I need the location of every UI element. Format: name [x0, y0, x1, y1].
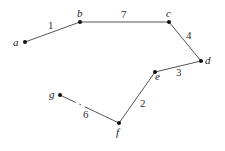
edge-weight-fg: 6: [83, 108, 89, 120]
node-label-g: g: [49, 88, 55, 100]
edge-weight-de: 3: [176, 66, 182, 78]
node-label-a: a: [13, 36, 19, 48]
node-c: [167, 20, 171, 24]
node-label-e: e: [155, 70, 160, 82]
edge-weight-ef: 2: [140, 97, 146, 109]
edge-f-g: [60, 95, 119, 123]
node-f: [117, 121, 121, 125]
node-d: [199, 59, 203, 63]
node-g: [58, 93, 62, 97]
node-label-b: b: [77, 7, 83, 19]
node-b: [78, 20, 82, 24]
node-label-f: f: [116, 126, 121, 138]
edge-weight-cd: 4: [186, 29, 192, 41]
node-a: [23, 40, 27, 44]
edge-c-d: [169, 22, 201, 61]
edge-weight-bc: 7: [121, 8, 127, 20]
edge-e-f: [119, 72, 155, 123]
edge-weight-ab: 1: [48, 19, 54, 31]
node-label-d: d: [205, 54, 211, 66]
node-label-c: c: [166, 7, 171, 19]
weighted-graph-diagram: a b c d e f g 1 7 4 3 2 6: [0, 0, 225, 151]
